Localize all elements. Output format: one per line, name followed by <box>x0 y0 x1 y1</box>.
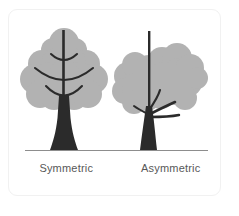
asymmetric-tree-leader-shoot <box>148 31 150 109</box>
caption-asymmetric: Asymmetric <box>118 162 223 174</box>
caption-symmetric: Symmetric <box>9 162 118 174</box>
figure-card: Symmetric Asymmetric <box>8 9 221 196</box>
symmetric-tree <box>20 28 108 150</box>
asymmetric-tree-canopy <box>112 43 208 114</box>
caption-row: Symmetric Asymmetric <box>9 162 222 174</box>
branch-mid-right <box>150 115 179 117</box>
asymmetric-tree <box>112 31 208 150</box>
